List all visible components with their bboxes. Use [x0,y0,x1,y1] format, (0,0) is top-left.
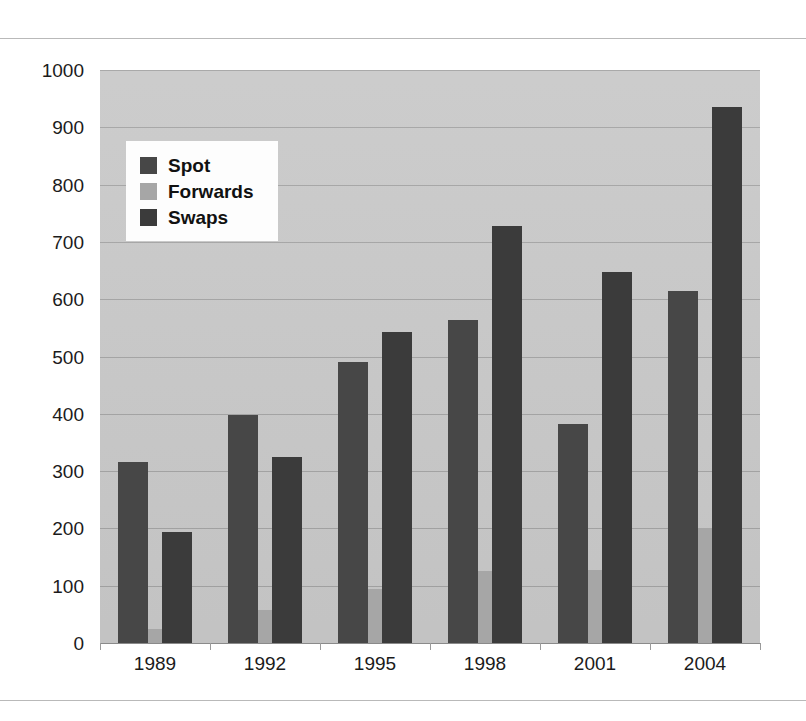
swaps-swatch-icon [140,209,157,226]
bar-spot[interactable] [448,320,478,643]
bar-forwards[interactable] [698,528,712,643]
legend-label-forwards: Forwards [168,182,254,201]
x-axis-tick-mark [430,643,431,650]
bar-swaps[interactable] [492,226,522,643]
bar-swaps[interactable] [272,457,302,643]
x-axis-tick-label: 1998 [464,653,506,675]
bar-forwards[interactable] [148,629,162,643]
bar-swaps[interactable] [602,272,632,643]
bar-spot[interactable] [228,415,258,643]
bar-spot[interactable] [118,462,148,643]
y-axis-tick-label: 0 [4,634,84,653]
legend-label-spot: Spot [168,156,210,175]
bar-spot[interactable] [558,424,588,643]
bar-group [338,70,412,643]
legend-item-spot[interactable]: Spot [140,152,250,178]
spot-swatch-icon [140,157,157,174]
y-axis-tick-label: 600 [4,290,84,309]
bar-spot[interactable] [668,291,698,643]
bar-group [668,70,742,643]
bar-forwards[interactable] [258,610,272,643]
bar-spot[interactable] [338,362,368,643]
x-axis-tick-mark [540,643,541,650]
x-axis-tick-label: 2001 [574,653,616,675]
chart-legend: Spot Forwards Swaps [126,141,278,241]
bar-forwards[interactable] [478,571,492,643]
top-divider-rule [0,38,806,39]
x-axis-tick-mark [210,643,211,650]
y-axis-tick-label: 400 [4,404,84,423]
legend-item-forwards[interactable]: Forwards [140,178,250,204]
bar-forwards[interactable] [368,589,382,643]
x-axis-tick-mark [650,643,651,650]
y-axis-tick-label: 700 [4,232,84,251]
bar-swaps[interactable] [162,532,192,643]
x-axis-tick-mark [100,643,101,650]
y-axis-tick-label: 1000 [4,61,84,80]
y-axis-tick-label: 500 [4,347,84,366]
x-axis-tick-label: 1995 [354,653,396,675]
bar-swaps[interactable] [382,332,412,643]
y-axis-tick-label: 300 [4,462,84,481]
y-axis-tick-label: 900 [4,118,84,137]
y-axis-tick-label: 800 [4,175,84,194]
x-axis-tick-mark [760,643,761,650]
forwards-swatch-icon [140,183,157,200]
bar-chart-figure: 01002003004005006007008009001000 1989199… [0,45,806,695]
bottom-divider-rule [0,700,806,701]
y-axis: 01002003004005006007008009001000 [0,45,92,695]
x-axis-tick-label: 2004 [684,653,726,675]
bar-forwards[interactable] [588,570,602,643]
bar-group [558,70,632,643]
bar-swaps[interactable] [712,107,742,643]
y-axis-tick-label: 100 [4,576,84,595]
y-axis-tick-label: 200 [4,519,84,538]
x-axis-tick-mark [320,643,321,650]
bar-group [448,70,522,643]
legend-label-swaps: Swaps [168,208,228,227]
x-axis-labels: 198919921995199820012004 [100,653,760,693]
x-axis-tick-label: 1992 [244,653,286,675]
x-axis-tick-label: 1989 [134,653,176,675]
legend-item-swaps[interactable]: Swaps [140,204,250,230]
